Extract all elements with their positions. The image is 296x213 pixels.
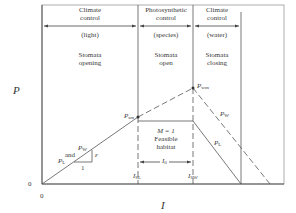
pw-label: PW (220, 110, 229, 120)
zone2-title-line2: control (137, 14, 195, 22)
pw-left-label: PW (78, 144, 87, 154)
psm-label: Psm (124, 112, 134, 122)
y-origin-label: 0 (28, 180, 32, 188)
zone2-stomata-line1: Stomata (137, 51, 195, 59)
and-label: and (65, 151, 75, 159)
pl-label: PL (214, 139, 221, 149)
habitat-habitat-label: habitat (140, 143, 192, 151)
zone1-stomata: Stomata opening (60, 51, 120, 67)
dashed-rise (138, 88, 193, 117)
zone1-title-line1: Climate (60, 6, 120, 14)
zone2-title-line1: Photosynthetic (137, 6, 195, 14)
pwm-label: Pwm (197, 82, 209, 92)
zone1-title: Climate control (60, 6, 120, 22)
habitat-label: M = 1 Feasible habitat (140, 127, 192, 151)
isl-label: ISL (133, 172, 141, 182)
slope-one-label: 1 (81, 164, 85, 172)
zone3-title: Climate control (193, 6, 241, 22)
habitat-feasible-label: Feasible (140, 135, 192, 143)
habitat-m-label: M = 1 (140, 127, 192, 135)
i0-label: I0 (160, 157, 169, 167)
zone1-subtitle: (light) (60, 31, 120, 39)
zone2-stomata-line2: open (137, 59, 195, 67)
pl-line (193, 121, 241, 184)
y-axis-label: P (13, 84, 20, 96)
zone1-title-line2: control (60, 14, 120, 22)
zone2-subtitle: (species) (137, 31, 195, 39)
zone3-title-line2: control (193, 14, 241, 22)
x-origin-label: 0 (40, 192, 44, 200)
rising-line (42, 117, 138, 184)
psm-point (137, 116, 140, 119)
zone3-stomata-line1: Stomata (193, 51, 241, 59)
zone3-stomata-line2: closing (193, 59, 241, 67)
pwm-point (192, 87, 195, 90)
isw-label: ISW (188, 172, 198, 182)
x-axis-label: I (161, 199, 165, 211)
zone3-title-line1: Climate (193, 6, 241, 14)
zone3-stomata: Stomata closing (193, 51, 241, 67)
zone1-stomata-line1: Stomata (60, 51, 120, 59)
slope-epsilon-label: ε (95, 151, 98, 159)
zone1-stomata-line2: opening (60, 59, 120, 67)
zone2-stomata: Stomata open (137, 51, 195, 67)
zone3-subtitle: (water) (193, 31, 241, 39)
zone2-title: Photosynthetic control (137, 6, 195, 22)
